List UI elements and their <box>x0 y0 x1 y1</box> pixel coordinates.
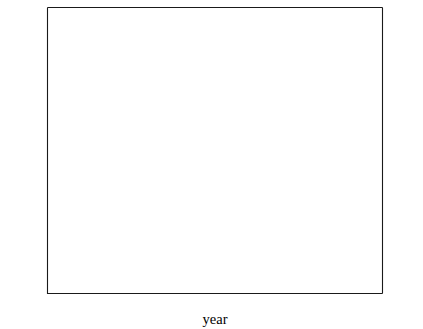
chart-figure: year <box>0 0 423 329</box>
x-axis-title: year <box>203 311 228 327</box>
chart-plot-area: year <box>0 0 423 329</box>
chart-background <box>0 0 423 329</box>
